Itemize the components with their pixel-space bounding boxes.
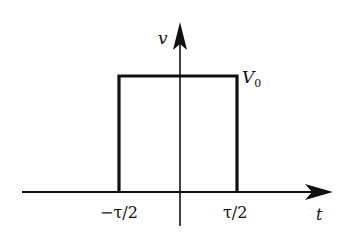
pulse-diagram: v V0 −τ/2 τ/2 t <box>0 0 357 240</box>
right-edge-label: τ/2 <box>223 203 247 222</box>
amplitude-label: V0 <box>242 67 261 90</box>
amplitude-label-subscript: 0 <box>254 77 261 90</box>
pulse-waveform <box>119 76 237 192</box>
t-axis-label: t <box>316 205 323 224</box>
left-edge-label: −τ/2 <box>100 203 138 222</box>
v-axis-label: v <box>158 28 168 48</box>
